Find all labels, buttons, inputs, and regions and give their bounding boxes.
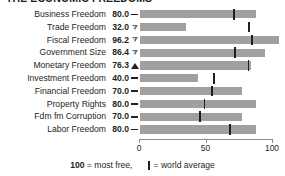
world-average-tick: [248, 60, 250, 71]
row-value: 80.0: [106, 100, 129, 109]
chart-row: Business Freedom80.0: [0, 8, 285, 21]
chart-row: Fdm fm Corruption70.0: [0, 110, 285, 123]
triangle-down-icon: [132, 50, 138, 55]
dash-icon: [131, 14, 138, 16]
axis-tick-label: 0: [137, 143, 142, 153]
row-plot: [140, 72, 285, 85]
value-bar: [140, 113, 242, 121]
world-average-tick: [199, 111, 201, 122]
row-trend: [129, 25, 140, 30]
row-label: Financial Freedom: [0, 87, 106, 96]
row-plot: [140, 85, 285, 98]
row-value: 96.2: [106, 36, 129, 45]
dash-icon: [131, 116, 138, 118]
row-trend: [129, 50, 140, 55]
triangle-up-icon: [131, 63, 139, 69]
chart-row: Monetary Freedom76.3: [0, 59, 285, 72]
row-trend: [129, 37, 140, 42]
value-bar: [140, 125, 256, 133]
row-plot: [140, 34, 285, 47]
freedom-rows: Business Freedom80.0Trade Freedom32.0Fis…: [0, 8, 285, 136]
row-plot: [140, 21, 285, 34]
value-bar: [140, 23, 186, 31]
value-bar: [140, 36, 279, 44]
chart-row: Property Rights80.0: [0, 98, 285, 111]
dash-icon: [131, 77, 138, 79]
world-average-tick: [248, 22, 250, 33]
page-title: THE ECONOMIC FREEDOMS: [6, 0, 152, 4]
world-average-tick: [229, 124, 231, 135]
world-average-tick: [211, 86, 213, 97]
row-plot: [140, 123, 285, 136]
world-average-tick: [233, 9, 235, 20]
row-value: 70.0: [106, 87, 129, 96]
value-bar: [140, 74, 198, 82]
dash-icon: [131, 90, 138, 92]
world-average-tick: [251, 35, 253, 46]
chart-row: Fiscal Freedom96.2: [0, 34, 285, 47]
row-plot: [140, 98, 285, 111]
legend-world-average-text: = world average: [153, 160, 214, 170]
axis-tick: [139, 139, 140, 143]
row-label: Monetary Freedom: [0, 61, 106, 70]
world-average-tick-icon: [148, 161, 150, 170]
row-label: Fdm fm Corruption: [0, 112, 106, 121]
chart-legend: 100 = most free, = world average: [0, 157, 285, 173]
row-trend: [129, 103, 140, 105]
row-value: 80.0: [106, 10, 129, 19]
row-trend: [129, 63, 140, 69]
axis-tick: [272, 139, 273, 143]
row-plot: [140, 8, 285, 21]
row-value: 40.0: [106, 74, 129, 83]
row-plot: [140, 110, 285, 123]
dash-icon: [131, 103, 138, 105]
row-value: 76.3: [106, 61, 129, 70]
chart-row: Investment Freedom40.0: [0, 72, 285, 85]
chart-title-clipped: THE ECONOMIC FREEDOMS: [6, 0, 281, 6]
legend-most-free-value: 100: [70, 160, 84, 170]
axis-tick-label: 50: [201, 143, 210, 153]
row-trend: [129, 116, 140, 118]
row-value: 32.0: [106, 23, 129, 32]
row-plot: [140, 46, 285, 59]
row-value: 70.0: [106, 112, 129, 121]
chart-row: Government Size86.4: [0, 46, 285, 59]
chart-row: Labor Freedom80.0: [0, 123, 285, 136]
dash-icon: [131, 129, 138, 131]
world-average-tick: [213, 73, 215, 84]
value-bar: [140, 87, 242, 95]
row-label: Property Rights: [0, 100, 106, 109]
value-bar: [140, 10, 256, 18]
value-bar: [140, 100, 256, 108]
triangle-down-icon: [132, 25, 138, 30]
row-label: Fiscal Freedom: [0, 36, 106, 45]
row-value: 80.0: [106, 125, 129, 134]
chart-row: Trade Freedom32.0: [0, 21, 285, 34]
row-label: Government Size: [0, 48, 106, 57]
row-trend: [129, 14, 140, 16]
row-trend: [129, 77, 140, 79]
row-label: Labor Freedom: [0, 125, 106, 134]
chart-row: Financial Freedom70.0: [0, 85, 285, 98]
value-bar: [140, 49, 265, 57]
x-axis: 050100: [0, 139, 285, 155]
row-plot: [140, 59, 285, 72]
row-label: Investment Freedom: [0, 74, 106, 83]
value-bar: [140, 61, 251, 69]
world-average-tick: [234, 47, 236, 58]
axis-tick: [206, 139, 207, 143]
triangle-down-icon: [132, 37, 138, 42]
row-value: 86.4: [106, 48, 129, 57]
row-trend: [129, 90, 140, 92]
row-label: Business Freedom: [0, 10, 106, 19]
legend-most-free-text: = most free,: [87, 160, 133, 170]
axis-tick-label: 100: [265, 143, 279, 153]
economic-freedoms-chart: THE ECONOMIC FREEDOMS Business Freedom80…: [0, 0, 285, 176]
row-label: Trade Freedom: [0, 23, 106, 32]
world-average-tick: [204, 99, 206, 110]
row-trend: [129, 129, 140, 131]
